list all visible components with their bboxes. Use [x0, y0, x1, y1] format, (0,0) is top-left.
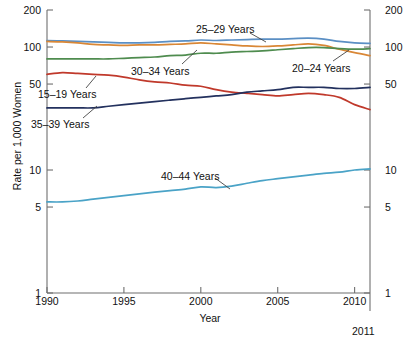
series-label-15-19-years: 15–19 Years [38, 89, 96, 100]
y-tick-right-5: 5 [385, 202, 391, 213]
y-tick-right-10: 10 [385, 165, 397, 176]
axes-group [47, 10, 370, 311]
end-year-label: 2011 [352, 325, 375, 337]
chart-svg [47, 10, 370, 293]
series-label-30-34-years: 30–34 Years [131, 66, 189, 77]
series-label-20-24-years: 20–24 Years [292, 63, 350, 74]
y-tick-left-100: 100 [7, 42, 41, 53]
figure-container: 151050100200 151050100200 19901995200020… [0, 0, 420, 347]
series-line-30-34-years [47, 47, 370, 59]
x-tick-2005: 2005 [266, 296, 289, 307]
x-tick-1995: 1995 [112, 296, 135, 307]
x-tick-1990: 1990 [35, 296, 58, 307]
x-tick-2010: 2010 [343, 296, 366, 307]
y-tick-right-200: 200 [385, 5, 403, 16]
y-axis-right-labels: 151050100200 [376, 10, 420, 293]
x-axis-labels: 19901995200020052010 [47, 296, 370, 310]
y-axis-title: Rate per 1,000 Women [11, 61, 23, 211]
x-tick-2000: 2000 [189, 296, 212, 307]
y-tick-right-50: 50 [385, 79, 397, 90]
series-label-35-39-years: 35–39 Years [31, 119, 89, 130]
series-label-40-44-years: 40–44 Years [161, 171, 219, 182]
y-tick-right-100: 100 [385, 42, 403, 53]
y-tick-right-1: 1 [385, 288, 391, 299]
series-label-25-29-years: 25–29 Years [196, 24, 254, 35]
x-axis-title: Year [0, 312, 420, 324]
plot-area [47, 10, 370, 293]
y-tick-left-200: 200 [7, 5, 41, 16]
